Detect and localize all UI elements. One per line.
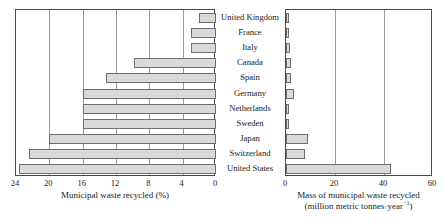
- left-bar: [134, 58, 216, 68]
- category-label: Japan: [217, 133, 283, 143]
- left-tick-label: 0: [203, 179, 227, 188]
- right-tick-label: 60: [420, 179, 444, 188]
- left-bar: [106, 73, 216, 83]
- category-label: Spain: [217, 72, 283, 82]
- left-bar: [191, 43, 216, 53]
- right-axis-units-pre: (million metric tonnes: [305, 201, 385, 211]
- category-label: Netherlands: [217, 103, 283, 113]
- country-category-labels: United KingdomFranceItalyCanadaSpainGerm…: [217, 9, 283, 176]
- right-bar: [286, 149, 305, 159]
- right-bar: [286, 164, 391, 174]
- right-axis-units-mid: ·year: [385, 201, 403, 211]
- left-bar: [49, 134, 216, 144]
- right-tick-label: 0: [273, 179, 297, 188]
- left-tick-label: 16: [70, 179, 94, 188]
- category-label: United States: [217, 163, 283, 173]
- category-label: Canada: [217, 57, 283, 67]
- right-bar: [286, 134, 308, 144]
- right-bar: [286, 13, 289, 23]
- category-label: Sweden: [217, 118, 283, 128]
- category-label: Germany: [217, 88, 283, 98]
- left-chart-x-axis-title: Municipal waste recycled (%): [15, 190, 215, 201]
- left-tick-label: 8: [136, 179, 160, 188]
- right-bar: [286, 119, 289, 129]
- left-tick-label: 4: [170, 179, 194, 188]
- right-chart-x-axis-title-line2: (million metric tonnes·year−1): [285, 201, 432, 212]
- left-tick-label: 12: [103, 179, 127, 188]
- right-gridline-20: [335, 10, 336, 175]
- right-bar: [286, 73, 291, 83]
- right-tick-label: 20: [322, 179, 346, 188]
- category-label: Switzerland: [217, 148, 283, 158]
- left-tick-label: 24: [3, 179, 27, 188]
- right-bar: [286, 104, 289, 114]
- left-bar: [83, 89, 216, 99]
- left-bar: [19, 164, 216, 174]
- left-bar-chart-plot-area: [15, 9, 215, 176]
- right-bar: [286, 43, 290, 53]
- right-axis-units-post: ): [410, 201, 413, 211]
- right-bar-chart-plot-area: [285, 9, 432, 176]
- category-label: France: [217, 27, 283, 37]
- category-label: United Kingdom: [217, 12, 283, 22]
- right-gridline-40: [384, 10, 385, 175]
- right-tick-label: 40: [371, 179, 395, 188]
- right-bar: [286, 28, 289, 38]
- category-label: Italy: [217, 42, 283, 52]
- left-bar: [191, 28, 216, 38]
- waste-recycling-figure: 24201612840 Municipal waste recycled (%)…: [0, 0, 445, 222]
- right-bar: [286, 89, 294, 99]
- left-bar: [199, 13, 216, 23]
- left-bar: [83, 119, 216, 129]
- left-bar: [83, 104, 216, 114]
- left-bar: [29, 149, 217, 159]
- right-bar: [286, 58, 291, 68]
- left-tick-label: 20: [36, 179, 60, 188]
